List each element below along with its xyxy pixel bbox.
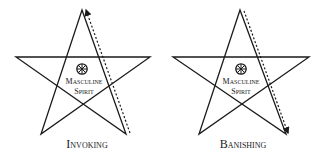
invoking-title: Invoking bbox=[66, 137, 108, 151]
banishing-title: Banishing bbox=[220, 137, 267, 151]
banishing-label-line2: Spirit bbox=[231, 87, 251, 96]
wheel-icon bbox=[77, 64, 87, 74]
wheel-icon bbox=[236, 64, 246, 74]
invoking-trace-arrow bbox=[86, 10, 130, 133]
banishing-label-line1: Masculine bbox=[223, 77, 260, 86]
pentagram-diagrams: Masculine Spirit Invoking Masculine Spir… bbox=[0, 0, 323, 156]
invoking-star-outline bbox=[16, 10, 150, 134]
invoking-pentagram: Masculine Spirit Invoking bbox=[16, 10, 150, 151]
invoking-label-line2: Spirit bbox=[74, 87, 94, 96]
invoking-label-line1: Masculine bbox=[66, 77, 103, 86]
banishing-trace-arrow bbox=[244, 11, 288, 133]
banishing-pentagram: Masculine Spirit Banishing bbox=[173, 10, 309, 151]
